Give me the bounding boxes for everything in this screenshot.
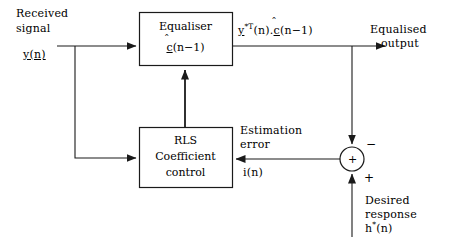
rls-block-label-line3: control	[139, 166, 232, 180]
desired-response-label-line2: response	[365, 208, 417, 221]
expr-c-symbol: ĉ	[274, 24, 280, 37]
received-signal-variable: y(n)	[23, 48, 46, 61]
equaliser-block-label-line1: Equaliser	[139, 20, 232, 34]
received-signal-label-line2: signal	[16, 22, 51, 35]
junction-minus-sign: −	[366, 138, 376, 150]
equalised-output-label-line1: Equalised	[370, 23, 427, 36]
estimation-error-variable: i(n)	[243, 166, 263, 179]
equaliser-block-label-line2: ĉ(n−1)	[139, 41, 232, 55]
input-branch-to-rls-arrow	[75, 46, 136, 158]
expr-end: (n−1)	[280, 24, 313, 37]
expr-c-hat-accent: ̂	[274, 16, 280, 29]
equaliser-coeff-index: (n−1)	[173, 41, 205, 54]
rls-block-label-line2: Coefficient	[139, 150, 232, 164]
rls-block-label-line1: RLS	[139, 134, 232, 148]
expr-conjugate-transpose: *T	[244, 22, 253, 31]
equaliser-output-expression: y*T(n).ĉ(n−1)	[238, 24, 313, 37]
equaliser-coeff-symbol: ĉ	[166, 41, 172, 54]
estimation-error-label-line2: error	[240, 138, 270, 151]
expr-middle: (n).	[254, 24, 274, 37]
block-diagram: Equaliser ĉ(n−1) RLS Coefficient contro…	[0, 0, 449, 248]
estimation-error-label-line1: Estimation	[240, 124, 302, 137]
equalised-output-label-line2: output	[381, 37, 419, 50]
desired-index: (n)	[376, 222, 392, 235]
coeff-hat-accent: ̂	[166, 33, 172, 47]
desired-response-label-line1: Desired	[365, 194, 410, 207]
junction-inner-plus: +	[348, 154, 357, 165]
received-signal-label-line1: Received	[16, 7, 68, 20]
junction-plus-sign: +	[364, 172, 374, 184]
desired-response-variable: h*(n)	[365, 222, 393, 235]
